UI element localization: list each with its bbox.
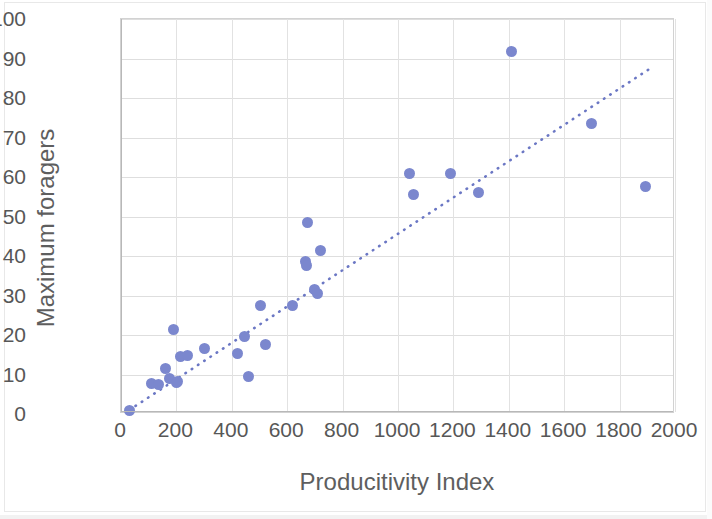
y-tick-label: 40 xyxy=(0,245,26,266)
gridline-vertical xyxy=(343,19,344,412)
gridline-horizontal xyxy=(121,296,673,297)
scan-edge-right xyxy=(707,0,712,519)
gridline-vertical xyxy=(675,19,676,412)
y-tick-label: 10 xyxy=(0,363,26,384)
y-tick-label: 30 xyxy=(0,284,26,305)
y-axis-line xyxy=(121,19,122,412)
data-point xyxy=(586,118,597,129)
y-axis-title: Maximum foragers xyxy=(34,108,58,348)
data-point xyxy=(301,260,312,271)
gridline-horizontal xyxy=(121,19,673,20)
x-tick-label: 600 xyxy=(269,419,304,440)
gridline-vertical xyxy=(287,19,288,412)
x-tick-label: 200 xyxy=(158,419,193,440)
data-point xyxy=(232,348,243,359)
data-point xyxy=(473,187,484,198)
gridline-horizontal xyxy=(121,256,673,257)
x-tick-label: 400 xyxy=(213,419,248,440)
x-tick-label: 1600 xyxy=(540,419,587,440)
data-point xyxy=(640,181,651,192)
data-point xyxy=(445,168,456,179)
gridline-vertical xyxy=(453,19,454,412)
x-tick-label: 1400 xyxy=(484,419,531,440)
gridline-horizontal xyxy=(121,59,673,60)
x-tick-label: 1000 xyxy=(374,419,421,440)
x-axis-title: Producitivity Index xyxy=(120,470,674,494)
scatter-chart-figure: Maximum foragers 0102030405060708090100 … xyxy=(0,0,712,519)
data-point xyxy=(255,300,266,311)
x-tick-label: 1800 xyxy=(595,419,642,440)
data-point xyxy=(302,217,313,228)
y-tick-label: 70 xyxy=(0,126,26,147)
gridline-vertical xyxy=(620,19,621,412)
x-tick-label: 800 xyxy=(324,419,359,440)
gridline-vertical xyxy=(509,19,510,412)
x-axis-line xyxy=(121,411,673,412)
data-point xyxy=(182,350,193,361)
data-point xyxy=(287,300,298,311)
data-point xyxy=(506,46,517,57)
y-tick-label: 60 xyxy=(0,166,26,187)
y-tick-label: 80 xyxy=(0,87,26,108)
data-point xyxy=(199,343,210,354)
data-point xyxy=(239,331,250,342)
data-point xyxy=(243,371,254,382)
y-tick-label: 20 xyxy=(0,324,26,345)
data-point xyxy=(260,339,271,350)
gridline-horizontal xyxy=(121,217,673,218)
y-tick-label: 100 xyxy=(0,8,26,29)
y-tick-label: 50 xyxy=(0,205,26,226)
gridline-horizontal xyxy=(121,138,673,139)
x-tick-label: 1200 xyxy=(429,419,476,440)
y-tick-label: 90 xyxy=(0,47,26,68)
gridline-horizontal xyxy=(121,177,673,178)
gridline-horizontal xyxy=(121,375,673,376)
x-tick-label: 2000 xyxy=(651,419,698,440)
data-point xyxy=(404,168,415,179)
gridline-horizontal xyxy=(121,335,673,336)
data-point xyxy=(408,189,419,200)
data-point xyxy=(172,376,183,387)
scan-edge-bottom xyxy=(0,515,712,519)
data-point xyxy=(312,288,323,299)
x-tick-label: 0 xyxy=(114,419,126,440)
plot-area xyxy=(120,18,674,413)
data-point xyxy=(315,245,326,256)
gridline-vertical xyxy=(398,19,399,412)
data-point xyxy=(168,324,179,335)
data-point xyxy=(153,379,164,390)
gridline-horizontal xyxy=(121,98,673,99)
y-tick-label: 0 xyxy=(0,403,26,424)
gridline-vertical xyxy=(564,19,565,412)
